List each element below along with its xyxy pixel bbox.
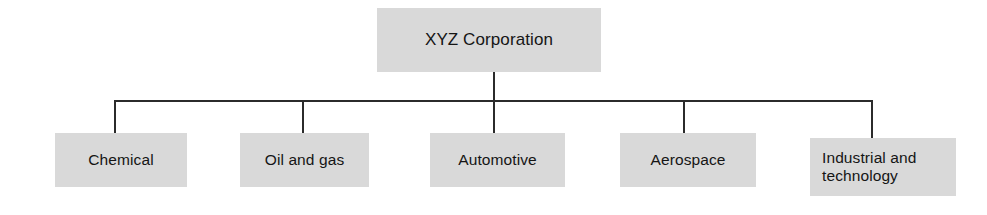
org-node-automotive[interactable]: Automotive	[430, 133, 565, 187]
org-node-chemical[interactable]: Chemical	[55, 133, 187, 187]
connector-root-stem	[493, 72, 495, 102]
org-node-root[interactable]: XYZ Corporation	[377, 8, 601, 72]
org-node-oil-and-gas[interactable]: Oil and gas	[240, 133, 369, 187]
org-node-oil-and-gas-label: Oil and gas	[265, 151, 345, 169]
connector-drop-oil-and-gas	[302, 100, 304, 133]
connector-drop-automotive	[493, 100, 495, 133]
org-node-aerospace[interactable]: Aerospace	[620, 133, 756, 187]
org-node-root-label: XYZ Corporation	[425, 30, 553, 50]
org-node-industrial-and-technology[interactable]: Industrial and technology	[810, 138, 956, 196]
org-node-chemical-label: Chemical	[88, 151, 153, 169]
connector-drop-aerospace	[683, 100, 685, 133]
org-node-automotive-label: Automotive	[458, 151, 537, 169]
org-node-industrial-and-technology-label: Industrial and technology	[822, 149, 916, 186]
connector-drop-chemical	[114, 100, 116, 133]
connector-drop-industrial-and-technology	[871, 100, 873, 138]
org-chart-canvas: XYZ Corporation Chemical Oil and gas Aut…	[0, 0, 987, 215]
org-node-aerospace-label: Aerospace	[650, 151, 725, 169]
